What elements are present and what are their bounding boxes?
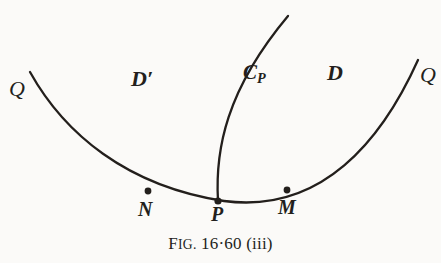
caption-prefix: F: [168, 234, 178, 253]
label-curve-cp-subscript: P: [257, 70, 266, 86]
caption-part: (iii): [246, 234, 273, 253]
label-region-d-prime: D′: [131, 68, 153, 90]
caption-smallcaps: IG.: [178, 237, 197, 252]
label-point-p: P: [211, 204, 223, 224]
prime-mark: ′: [147, 66, 153, 91]
label-point-m: M: [278, 197, 296, 217]
label-region-d-prime-letter: D: [131, 66, 147, 91]
label-point-n: N: [138, 199, 152, 219]
point-marker-n: [145, 188, 152, 195]
label-curve-cp-base: C: [243, 60, 257, 84]
label-curve-cp: CP: [243, 62, 266, 85]
figure-container: Q Q D′ D CP N P M FIG. 16·60 (iii): [0, 0, 441, 263]
label-region-d: D: [327, 62, 343, 84]
label-q-left: Q: [9, 78, 25, 100]
figure-caption: FIG. 16·60 (iii): [0, 234, 441, 254]
caption-number: 16·60: [201, 234, 242, 253]
label-q-right: Q: [420, 64, 436, 86]
point-marker-m: [284, 187, 291, 194]
